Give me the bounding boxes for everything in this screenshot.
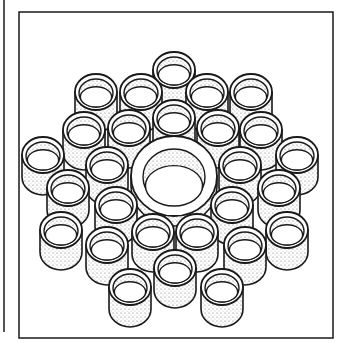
tube — [201, 269, 243, 327]
center-tube — [131, 136, 217, 226]
tube-bundle-illustration — [0, 0, 343, 350]
tube — [266, 212, 308, 270]
tube — [40, 212, 82, 270]
tube — [109, 269, 151, 327]
tube — [154, 250, 196, 308]
tube-group — [22, 52, 318, 327]
